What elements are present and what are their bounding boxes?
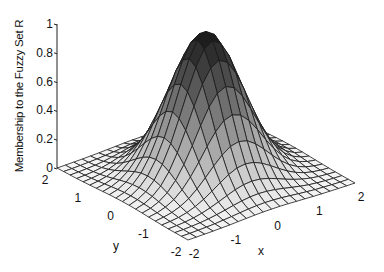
z-axis: 00.20.40.60.81 bbox=[36, 17, 57, 175]
y-axis-label: y bbox=[113, 239, 119, 253]
y-tick-label: -2 bbox=[171, 245, 182, 259]
z-tick-label: 1 bbox=[46, 17, 53, 31]
x-tick-label: -1 bbox=[230, 233, 241, 247]
y-tick-label: -1 bbox=[138, 227, 149, 241]
z-tick-label: 0.2 bbox=[36, 132, 53, 146]
y-tick-label: 2 bbox=[42, 173, 49, 187]
z-axis-label: Membership to the Fuzzy Set R bbox=[13, 20, 25, 172]
z-tick-label: 0.6 bbox=[36, 75, 53, 89]
surface-mesh bbox=[57, 32, 355, 241]
x-tick-label: 2 bbox=[358, 190, 365, 204]
z-tick-label: 0.4 bbox=[36, 103, 53, 117]
y-tick-label: 1 bbox=[74, 191, 81, 205]
z-tick-label: 0.8 bbox=[36, 46, 53, 60]
x-tick-label: 0 bbox=[274, 219, 281, 233]
x-tick-label: -2 bbox=[189, 247, 200, 261]
x-tick-label: 1 bbox=[316, 204, 323, 218]
x-axis-label: x bbox=[258, 244, 264, 258]
surface-plot: 00.20.40.60.81 -2-1012 -2-1012 Membershi… bbox=[0, 0, 384, 272]
y-tick-label: 0 bbox=[107, 209, 114, 223]
